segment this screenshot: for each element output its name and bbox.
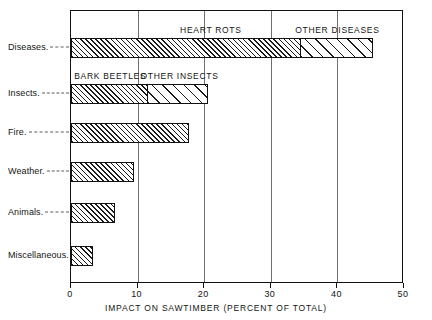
tick-label-10: 10 [131,289,142,299]
plot-area: HEART ROTSOTHER DISEASESBARK BEETLESOTHE… [70,10,403,283]
leader-line-weather [47,171,69,172]
tick-40 [336,283,337,288]
bar-fire [71,123,189,143]
bar-segment-fire [72,124,188,142]
tick-label-40: 40 [331,289,342,299]
tick-label-30: 30 [264,289,275,299]
bar-segment-miscellaneous [72,247,92,265]
bar-diseases [71,38,373,58]
bar-insects [71,84,208,104]
category-label-fire: Fire. [8,127,27,137]
bar-miscellaneous [71,246,93,266]
leader-line-diseases [50,47,69,48]
annotation-bark-beetles: BARK BEETLES [74,71,146,81]
leader-line-fire [29,132,70,133]
annotation-heart-rots: HEART ROTS [180,25,241,35]
bar-segment-bark-beetles [72,85,147,103]
category-label-weather: Weather. [8,166,45,176]
bar-segment-other-diseases [300,39,371,57]
leader-line-insects [42,93,69,94]
tick-label-20: 20 [198,289,209,299]
tick-20 [203,283,204,288]
tick-label-0: 0 [67,289,72,299]
tick-30 [270,283,271,288]
annotation-other-diseases: OTHER DISEASES [295,25,379,35]
category-label-diseases: Diseases. [8,42,48,52]
category-label-animals: Animals. [8,207,43,217]
leader-line-animals [45,212,69,213]
bar-chart: HEART ROTSOTHER DISEASESBARK BEETLESOTHE… [0,0,432,320]
bar-segment-other-insects [147,85,207,103]
bar-segment-heart-rots [72,39,300,57]
bar-segment-animals [72,204,114,222]
annotation-other-insects: OTHER INSECTS [141,71,219,81]
bar-weather [71,162,134,182]
tick-10 [137,283,138,288]
x-axis-title: IMPACT ON SAWTIMBER (PERCENT OF TOTAL) [0,303,432,313]
category-label-miscellaneous: Miscellaneous. [8,250,69,260]
tick-50 [403,283,404,288]
tick-label-50: 50 [398,289,409,299]
bar-segment-weather [72,163,133,181]
category-label-insects: Insects. [8,88,40,98]
bar-animals [71,203,115,223]
tick-0 [70,283,71,288]
